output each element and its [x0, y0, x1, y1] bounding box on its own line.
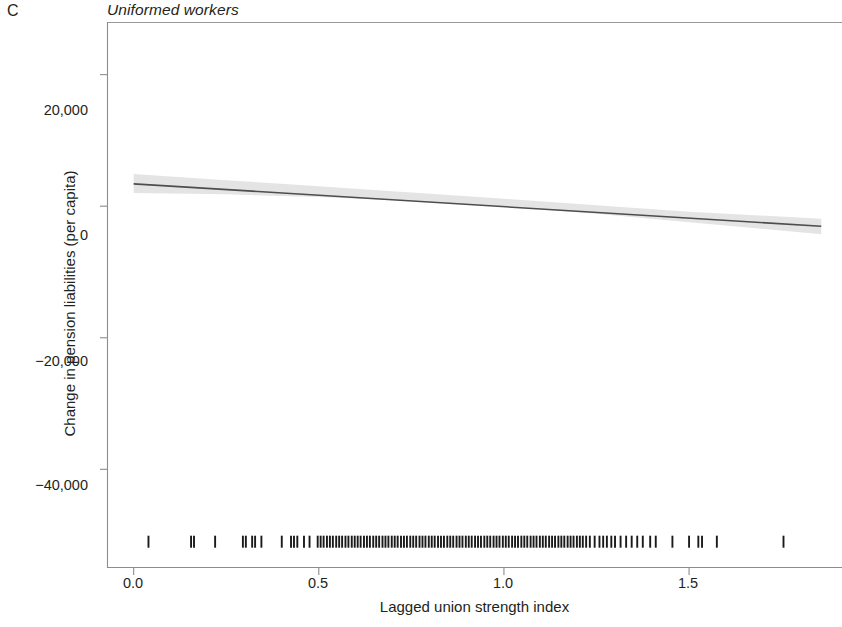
x-tick-marks	[134, 568, 689, 575]
rug-marks	[148, 536, 783, 548]
confidence-band	[134, 174, 822, 234]
y-tick-marks	[100, 75, 107, 470]
regression-line	[134, 184, 822, 226]
plot-canvas	[0, 0, 842, 627]
figure-panel-c: C Uniformed workers Change in pension li…	[0, 0, 842, 627]
